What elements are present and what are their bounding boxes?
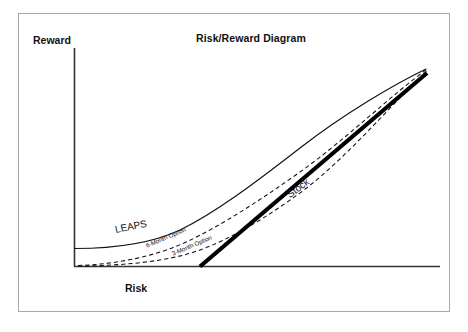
chart-title: Risk/Reward Diagram: [196, 32, 306, 44]
series-line-three-month-option: [78, 71, 427, 266]
x-axis-label: Risk: [125, 282, 147, 294]
chart-axes: [74, 48, 440, 267]
page-canvas: Risk/Reward Diagram Reward Risk LEAPS 6-…: [0, 0, 468, 332]
series-line-stock: [200, 73, 427, 267]
risk-reward-chart: [0, 0, 468, 332]
series-line-six-month-option: [78, 70, 426, 266]
y-axis-label: Reward: [33, 34, 71, 46]
